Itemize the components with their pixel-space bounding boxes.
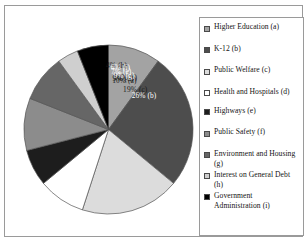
legend-item-e[interactable]: Highways (e) <box>204 106 300 128</box>
legend-label-d: Health and Hospitals (d) <box>214 87 290 98</box>
legend-label-f: Public Safety (f) <box>214 127 265 138</box>
legend-label-a: Higher Education (a) <box>214 22 279 33</box>
legend-label-g: Environment and Housing (g) <box>214 149 300 170</box>
legend-swatch-i-icon <box>204 194 210 200</box>
legend-item-f[interactable]: Public Safety (f) <box>204 127 300 149</box>
legend-swatch-h-icon <box>204 173 210 179</box>
legend-swatch-e-icon <box>204 109 210 115</box>
legend-item-c[interactable]: Public Welfare (c) <box>204 65 300 87</box>
legend-swatch-g-icon <box>204 152 210 158</box>
legend-swatch-b-icon <box>204 47 210 53</box>
legend-label-e: Highways (e) <box>214 106 256 117</box>
pie-chart: 10% (a)26% (b)19% (c)9% (d)7% (e)10% (f)… <box>23 44 194 215</box>
legend-label-c: Public Welfare (c) <box>214 65 270 76</box>
legend-label-i: Government Administration (i) <box>214 191 300 212</box>
pie-slice-group <box>24 45 193 214</box>
legend-item-i[interactable]: Government Administration (i) <box>204 191 300 212</box>
pie-label-i: 6% (i) <box>111 64 130 72</box>
pie-label-g: 9% (g) <box>114 72 135 80</box>
legend-item-b[interactable]: K-12 (b) <box>204 44 300 66</box>
legend-box: Higher Education (a)K-12 (b)Public Welfa… <box>199 17 304 236</box>
legend-swatch-c-icon <box>204 69 210 75</box>
legend-swatch-a-icon <box>204 26 210 32</box>
legend-label-b: K-12 (b) <box>214 44 241 55</box>
clipped-title-fragment <box>22 0 102 1</box>
pie-label-c: 19% (c) <box>123 86 147 94</box>
legend-swatch-f-icon <box>204 131 210 137</box>
figure-canvas: 10% (a)26% (b)19% (c)9% (d)7% (e)10% (f)… <box>0 0 308 243</box>
legend-item-h[interactable]: Interest on General Debt (h) <box>204 170 300 191</box>
legend-swatch-d-icon <box>204 90 210 96</box>
figure-frame: 10% (a)26% (b)19% (c)9% (d)7% (e)10% (f)… <box>4 5 303 237</box>
legend-label-h: Interest on General Debt (h) <box>214 170 300 191</box>
legend-item-g[interactable]: Environment and Housing (g) <box>204 149 300 170</box>
legend-item-a[interactable]: Higher Education (a) <box>204 22 300 44</box>
legend-item-d[interactable]: Health and Hospitals (d) <box>204 87 300 106</box>
